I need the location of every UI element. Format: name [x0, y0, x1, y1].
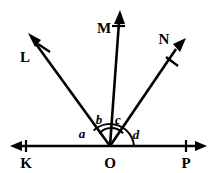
ray-ol: [28, 33, 110, 146]
angle-label-b: b: [96, 112, 103, 127]
label-l: L: [20, 49, 30, 65]
label-n: N: [159, 31, 170, 47]
geometry-diagram: K O P L M N a b c d: [0, 0, 217, 173]
arrow-m-icon: [114, 10, 125, 24]
label-o: O: [104, 155, 116, 171]
arrow-right-icon: [195, 141, 207, 151]
angle-label-d: d: [133, 127, 140, 142]
outer-arc: [94, 124, 134, 146]
label-p: P: [181, 155, 190, 171]
geometry-canvas: K O P L M N a b c d: [0, 0, 217, 173]
ray-on: [110, 38, 186, 146]
angle-arcs: [94, 124, 134, 146]
label-m: M: [97, 20, 111, 36]
angle-label-a: a: [79, 126, 86, 141]
label-k: K: [20, 155, 32, 171]
ray-ol-segment: [36, 44, 110, 146]
arrow-left-icon: [10, 141, 22, 151]
angle-label-c: c: [115, 112, 121, 127]
